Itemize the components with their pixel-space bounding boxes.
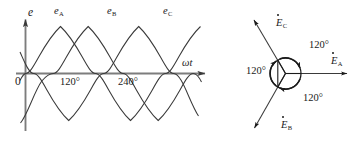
curve-label-e-b: eB — [107, 6, 116, 17]
three-phase-emf-figure: e eA eB eC 0 120° 240° ωt EC EA EB 120° … — [0, 0, 363, 147]
phasor-dot-e-c — [277, 14, 279, 16]
phasor-label-e-c: EC — [276, 18, 287, 29]
phasor-label-e-a-base: E — [331, 55, 337, 66]
phasor-label-e-b-base: E — [281, 119, 287, 130]
curve-label-e-c: eC — [163, 6, 172, 17]
curve-label-e-a-sub: A — [59, 10, 64, 17]
figure-vector-graphics — [0, 0, 363, 147]
angle-label-bottom: 120° — [303, 93, 323, 104]
phasor-label-e-b: EB — [281, 120, 292, 131]
angle-arc-bottom — [280, 79, 300, 89]
curve-e-c — [21, 27, 202, 124]
curve-label-e-a: eA — [54, 6, 63, 17]
waveform-curves — [20, 27, 202, 124]
phasor-dot-e-b — [282, 116, 284, 118]
phasor-label-e-a: EA — [331, 56, 342, 67]
x-tick-label-120: 120° — [60, 77, 80, 88]
phasor-label-e-c-base: E — [276, 17, 282, 28]
phasor-label-e-b-sub: B — [288, 124, 292, 131]
phasor-label-e-c-sub: C — [283, 22, 287, 29]
curve-label-e-b-base: e — [107, 5, 112, 16]
phasor-label-e-a-sub: A — [338, 60, 343, 67]
omega-t-axis-label: ωt — [182, 58, 192, 69]
phasor-diagram-vectors — [254, 20, 347, 128]
angle-arc-top — [280, 58, 300, 68]
angle-label-left: 120° — [246, 66, 266, 77]
curve-label-e-b-sub: B — [112, 10, 116, 17]
curve-label-e-c-base: e — [163, 5, 168, 16]
e-axis-label: e — [28, 7, 33, 19]
angle-label-top: 120° — [309, 40, 329, 51]
origin-label: 0 — [15, 76, 21, 88]
phasor-dot-e-a — [332, 52, 334, 54]
curve-label-e-c-sub: C — [168, 10, 172, 17]
angle-arc-left — [270, 61, 276, 86]
curve-label-e-a-base: e — [54, 5, 59, 16]
x-tick-label-240: 240° — [118, 77, 138, 88]
